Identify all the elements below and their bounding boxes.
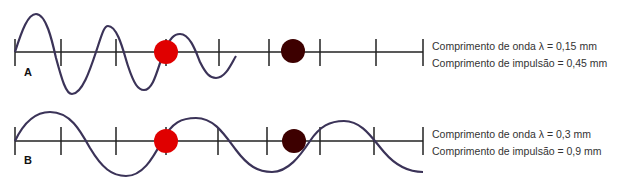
axis-b <box>15 127 423 155</box>
wave-b <box>15 112 423 176</box>
dark-dot-b <box>282 129 306 153</box>
axis-a <box>15 39 423 66</box>
panel-label-b: B <box>24 154 32 166</box>
panel-label-a: A <box>24 66 32 78</box>
red-dot-a <box>154 40 178 64</box>
pulse-length-text-a: Comprimento de impulsão = 0,45 mm <box>432 57 607 69</box>
wavelength-text-a: Comprimento de onda λ = 0,15 mm <box>432 40 597 52</box>
wave-a <box>15 14 236 94</box>
red-dot-b <box>154 129 178 153</box>
wavelength-text-b: Comprimento de onda λ = 0,3 mm <box>432 128 591 140</box>
dark-dot-a <box>281 39 305 63</box>
pulse-length-text-b: Comprimento de impulsão = 0,9 mm <box>432 145 602 157</box>
